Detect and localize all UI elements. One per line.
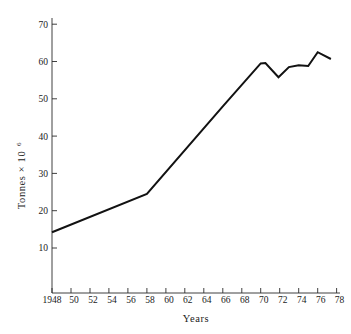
y-axis-title-exponent: 6 [15,142,23,146]
x-tick-label: 76 [316,295,326,305]
y-tick-label: 70 [39,20,49,30]
x-tick-label: 52 [88,295,98,305]
x-tick-label: 58 [145,295,155,305]
x-tick-label: 72 [278,295,288,305]
y-tick-label: 50 [39,94,49,104]
x-tick-label: 50 [69,295,79,305]
x-tick-label: 56 [126,295,136,305]
data-series-line [52,52,331,232]
x-axis-ticks: 1948 50 52 54 56 58 60 62 64 66 68 70 [43,288,345,305]
y-tick-label: 60 [39,57,49,67]
x-tick-label: 74 [297,295,307,305]
x-tick-label: 60 [164,295,174,305]
y-axis-title-group: Tonnes × 10 6 [15,142,27,209]
y-tick-label: 30 [39,169,49,179]
chart-figure: 10 20 30 40 50 60 70 1948 50 52 54 [0,0,351,334]
x-tick-label: 66 [221,295,231,305]
x-tick-label: 64 [202,295,212,305]
axes-group [52,18,340,293]
x-axis-title: Years [183,313,209,324]
x-tick-label: 54 [107,295,117,305]
x-tick-label: 1948 [43,295,62,305]
x-tick-label: 78 [335,295,345,305]
y-tick-label: 20 [39,206,49,216]
line-chart-canvas: 10 20 30 40 50 60 70 1948 50 52 54 [0,0,351,334]
x-tick-label: 62 [183,295,193,305]
x-tick-label: 68 [240,295,250,305]
y-tick-label: 40 [39,132,49,142]
y-axis-title: Tonnes × 10 [16,151,27,209]
y-tick-label: 10 [39,243,49,253]
y-axis-ticks: 10 20 30 40 50 60 70 [39,20,58,254]
x-tick-label: 70 [259,295,269,305]
